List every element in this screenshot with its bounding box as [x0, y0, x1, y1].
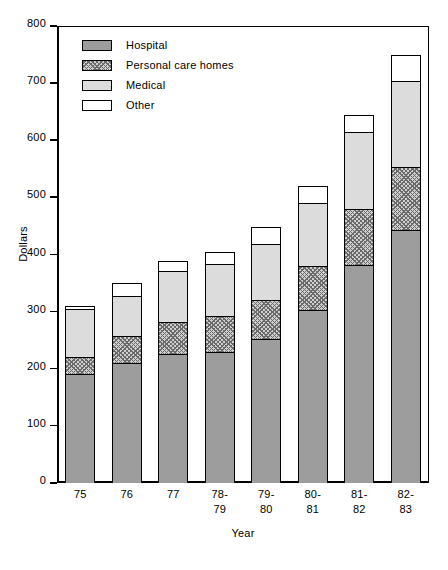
legend-label: Medical	[126, 79, 165, 91]
y-tick-label: 600	[27, 132, 46, 143]
legend-item: Personal care homes	[82, 56, 262, 74]
bar-segment	[159, 322, 187, 355]
y-tick-mark	[50, 311, 57, 313]
bar-segment	[392, 55, 420, 82]
y-tick-mark	[50, 25, 57, 27]
bar-82-83	[391, 55, 421, 483]
stacked-bar-chart: 0100200300400500600700800 Dollars Hospit…	[0, 0, 448, 570]
bar-segment	[66, 309, 94, 358]
y-tick-label: 700	[27, 75, 46, 86]
legend-label: Hospital	[126, 39, 167, 51]
bar-segment	[159, 354, 187, 483]
y-tick-mark	[50, 82, 57, 84]
chart-legend: HospitalPersonal care homesMedicalOther	[82, 36, 262, 116]
y-tick-label: 800	[27, 18, 46, 29]
bar-77	[158, 261, 188, 483]
bar-segment	[252, 227, 280, 244]
x-tick-label: 77	[150, 487, 197, 502]
legend-swatch-icon	[82, 40, 112, 51]
y-tick-mark	[50, 254, 57, 256]
y-tick-mark	[50, 368, 57, 370]
bar-78-79	[205, 252, 235, 483]
legend-label: Other	[126, 99, 155, 111]
bar-segment	[252, 300, 280, 339]
bar-segment	[159, 261, 187, 270]
bar-segment	[252, 244, 280, 300]
bar-segment	[392, 230, 420, 483]
x-axis-title: Year	[57, 527, 429, 539]
y-tick-mark	[50, 482, 57, 484]
bar-segment	[392, 81, 420, 167]
legend-label: Personal care homes	[126, 59, 234, 71]
bar-segment	[206, 352, 234, 483]
bar-segment	[113, 296, 141, 336]
bar-segment	[206, 252, 234, 265]
y-tick-label: 200	[27, 361, 46, 372]
legend-item: Medical	[82, 76, 262, 94]
bar-79-80	[251, 227, 281, 483]
bar-80-81	[298, 186, 328, 483]
x-tick-label: 82- 83	[383, 487, 430, 517]
bar-segment	[299, 266, 327, 311]
y-tick-label: 100	[27, 418, 46, 429]
bar-segment	[159, 271, 187, 322]
bar-segment	[299, 310, 327, 483]
bar-segment	[345, 115, 373, 132]
bar-81-82	[344, 115, 374, 483]
bar-segment	[66, 306, 94, 309]
bar-segment	[345, 132, 373, 210]
bar-segment	[66, 357, 94, 374]
bar-segment	[392, 167, 420, 230]
bar-75	[65, 306, 95, 483]
x-tick-label: 78- 79	[197, 487, 244, 517]
x-tick-label: 76	[104, 487, 151, 502]
y-tick-label: 0	[40, 475, 46, 486]
x-tick-label: 81- 82	[336, 487, 383, 517]
bar-segment	[206, 316, 234, 352]
x-tick-label: 79- 80	[243, 487, 290, 517]
bar-segment	[299, 186, 327, 203]
legend-item: Other	[82, 96, 262, 114]
y-axis-title: Dollars	[17, 209, 29, 279]
y-tick-mark	[50, 139, 57, 141]
bar-76	[112, 283, 142, 484]
legend-swatch-icon	[82, 60, 112, 71]
y-tick-label: 500	[27, 189, 46, 200]
bar-segment	[113, 363, 141, 483]
y-tick-label: 300	[27, 304, 46, 315]
legend-swatch-icon	[82, 80, 112, 91]
x-tick-label: 75	[57, 487, 104, 502]
bar-segment	[113, 283, 141, 296]
y-tick-mark	[50, 196, 57, 198]
bar-segment	[345, 265, 373, 483]
y-tick-mark	[50, 425, 57, 427]
bar-segment	[299, 203, 327, 266]
bar-segment	[252, 339, 280, 483]
bar-segment	[206, 264, 234, 315]
bar-segment	[66, 374, 94, 483]
x-tick-label: 80- 81	[290, 487, 337, 517]
bar-segment	[345, 209, 373, 264]
bar-segment	[113, 336, 141, 363]
y-tick-label: 400	[27, 247, 46, 258]
legend-item: Hospital	[82, 36, 262, 54]
legend-swatch-icon	[82, 100, 112, 111]
